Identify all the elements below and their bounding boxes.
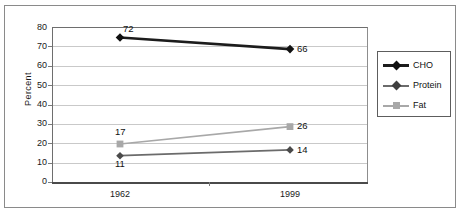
chart-outer-frame: 80 70 60 50 40 30 20 10 0 Percent 1962 1… bbox=[4, 5, 456, 208]
x-tick-label-1999: 1999 bbox=[255, 189, 325, 199]
y-tick-60 bbox=[48, 66, 52, 67]
legend-marker-cho bbox=[392, 60, 402, 70]
x-tick-center bbox=[209, 182, 210, 186]
gridline-60 bbox=[52, 66, 368, 67]
data-label-protein-1962: 11 bbox=[115, 158, 125, 169]
y-tick-10 bbox=[48, 163, 52, 164]
x-axis-line bbox=[52, 182, 368, 184]
y-tick-40 bbox=[48, 105, 52, 106]
legend-marker-protein bbox=[392, 80, 402, 90]
y-tick-30 bbox=[48, 124, 52, 125]
gridline-20 bbox=[52, 143, 368, 144]
gridline-70 bbox=[52, 46, 368, 47]
gridline-40 bbox=[52, 105, 368, 106]
data-label-cho-1962: 72 bbox=[123, 23, 134, 34]
y-tick-label-0: 0 bbox=[17, 177, 47, 186]
data-label-protein-1999: 14 bbox=[297, 144, 308, 155]
chart-legend: CHO Protein Fat bbox=[377, 51, 451, 117]
y-tick-20 bbox=[48, 143, 52, 144]
y-axis-title: Percent bbox=[23, 57, 33, 121]
legend-item-cho[interactable]: CHO bbox=[383, 59, 449, 71]
y-tick-0 bbox=[48, 182, 52, 183]
x-tick-label-1962: 1962 bbox=[85, 189, 155, 199]
legend-label-protein: Protein bbox=[413, 79, 442, 91]
y-tick-label-20: 20 bbox=[17, 139, 47, 148]
gridline-10 bbox=[52, 163, 368, 164]
data-label-fat-1962: 17 bbox=[115, 126, 126, 137]
legend-label-cho: CHO bbox=[413, 59, 433, 71]
legend-marker-fat bbox=[393, 102, 400, 109]
y-tick-label-80: 80 bbox=[17, 23, 47, 32]
data-label-fat-1999: 26 bbox=[297, 120, 308, 131]
legend-item-fat[interactable]: Fat bbox=[383, 99, 449, 111]
plot-area bbox=[52, 27, 368, 182]
y-tick-50 bbox=[48, 85, 52, 86]
legend-item-protein[interactable]: Protein bbox=[383, 79, 449, 91]
gridline-30 bbox=[52, 124, 368, 125]
y-tick-70 bbox=[48, 46, 52, 47]
y-tick-label-10: 10 bbox=[17, 158, 47, 167]
y-tick-label-70: 70 bbox=[17, 42, 47, 51]
data-label-cho-1999: 66 bbox=[297, 43, 308, 54]
legend-label-fat: Fat bbox=[413, 99, 426, 111]
gridline-50 bbox=[52, 85, 368, 86]
